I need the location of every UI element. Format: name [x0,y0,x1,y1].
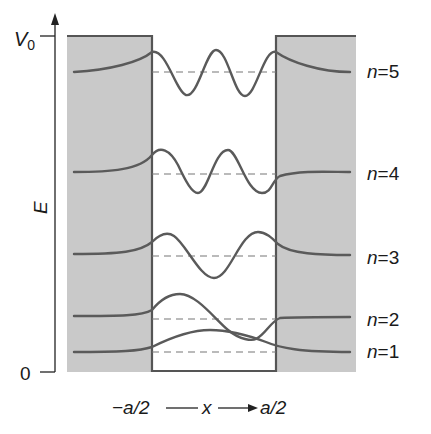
x-axis-label: −a/2 x a/2 [112,397,287,418]
label-n5: n=5 [367,61,399,82]
x-right-label: a/2 [260,397,287,418]
right-barrier [276,36,356,372]
energy-levels [152,72,276,352]
label-n2: n=2 [367,309,399,330]
energy-axis-label: E [30,201,51,214]
x-var-label: x [201,397,213,418]
label-n3: n=3 [367,247,399,268]
label-n4: n=4 [367,163,400,184]
y-axis-arrow-icon [51,13,59,25]
x-arrow-icon [248,404,258,412]
level-labels: n=5 n=4 n=3 n=2 n=1 [367,61,400,362]
x-left-label: −a/2 [112,397,150,418]
v0-label: V0 [14,28,35,53]
energy-axis [40,13,59,372]
left-barrier [67,36,152,372]
label-n1: n=1 [367,341,399,362]
zero-label: 0 [20,363,31,384]
square-well-diagram: V0 0 E n=5 n=4 n=3 n=2 n=1 −a/2 x a/2 [0,0,431,434]
